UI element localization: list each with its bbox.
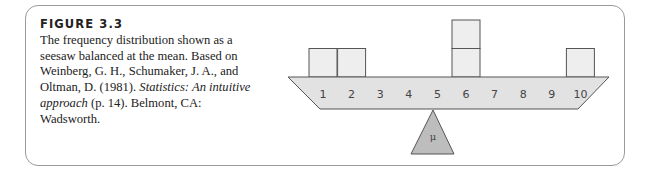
mean-mu-label: μ bbox=[430, 131, 437, 142]
seesaw-diagram: 12345678910 μ bbox=[0, 0, 655, 175]
scale-number: 8 bbox=[520, 88, 527, 101]
scale-number: 10 bbox=[573, 88, 587, 101]
frequency-boxes bbox=[309, 20, 594, 77]
frequency-box bbox=[338, 49, 366, 78]
scale-number: 3 bbox=[377, 88, 384, 101]
frequency-box bbox=[452, 49, 480, 78]
scale-number: 9 bbox=[548, 88, 555, 101]
scale-number: 1 bbox=[320, 88, 327, 101]
scale-number: 5 bbox=[434, 88, 441, 101]
scale-number: 2 bbox=[348, 88, 355, 101]
frequency-box bbox=[566, 49, 594, 78]
scale-number: 7 bbox=[491, 88, 498, 101]
scale-number: 4 bbox=[405, 88, 412, 101]
scale-number: 6 bbox=[463, 88, 470, 101]
frequency-box bbox=[309, 49, 337, 78]
seesaw-beam bbox=[288, 77, 609, 109]
frequency-box bbox=[452, 20, 480, 49]
